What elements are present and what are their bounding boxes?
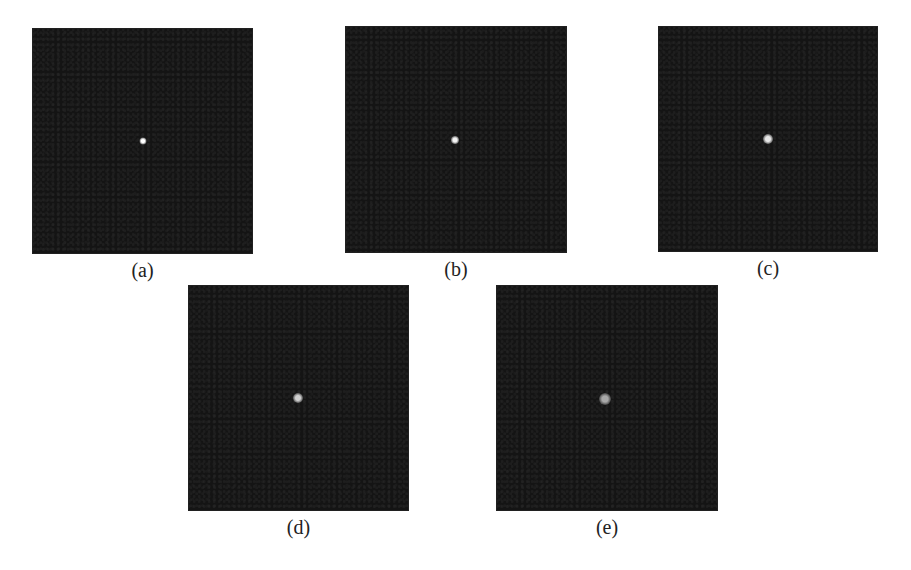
panel-caption: (e) [496,517,718,537]
light-spot [451,136,459,144]
panel-caption: (b) [345,259,567,279]
panel-caption: (d) [188,517,409,537]
light-spot [293,393,303,403]
panel-c: (c) [658,26,878,282]
light-spot [763,134,773,144]
panel-image [188,285,409,511]
light-spot [599,393,611,405]
panel-d: (d) [188,285,409,541]
panel-image [658,26,878,252]
panel-image [345,26,567,253]
panel-caption: (c) [658,258,878,278]
panel-a: (a) [32,28,253,284]
panel-b: (b) [345,26,567,283]
panel-image [32,28,253,254]
light-spot [140,138,147,145]
panel-caption: (a) [32,260,253,280]
panel-e: (e) [496,285,718,541]
panel-image [496,285,718,511]
